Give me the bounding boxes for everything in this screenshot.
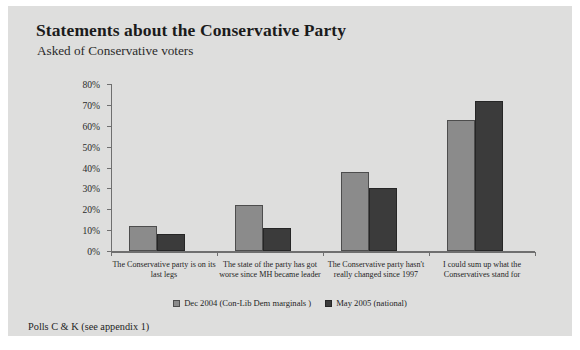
slide-panel: Statements about the Conservative Party … [8,6,572,336]
x-axis-category-label: I could sum up what the Conservatives st… [429,260,535,280]
x-axis-tick [217,252,218,256]
bar[interactable] [263,228,291,251]
legend-item[interactable]: May 2005 (national) [325,298,407,308]
bar-group [323,84,429,251]
bar-chart-plot-area: 0%10%20%30%40%50%60%70%80% The Conservat… [111,84,535,252]
bar[interactable] [369,188,397,251]
x-axis-tick [111,252,112,256]
legend-swatch-icon [173,300,180,307]
legend-label: May 2005 (national) [336,298,407,308]
source-footnote: Polls C & K (see appendix 1) [28,321,149,332]
bar[interactable] [447,120,475,252]
bar[interactable] [475,101,503,251]
legend-label: Dec 2004 (Con-Lib Dem marginals ) [184,298,311,308]
bar[interactable] [157,234,185,251]
page-subtitle: Asked of Conservative voters [37,43,193,59]
legend-item[interactable]: Dec 2004 (Con-Lib Dem marginals ) [173,298,311,308]
bar-group [217,84,323,251]
y-axis-tick-label: 50% [82,141,100,152]
bar[interactable] [341,172,369,251]
y-axis-tick-label: 60% [82,120,100,131]
y-axis-tick-label: 40% [82,162,100,173]
x-axis-category-label: The Conservative party hasn't really cha… [323,260,429,280]
y-axis-tick-label: 20% [82,204,100,215]
bar-group [111,84,217,251]
y-axis-tick-label: 30% [82,183,100,194]
x-axis-category-label: The state of the party has got worse sin… [217,260,323,280]
chart-legend: Dec 2004 (Con-Lib Dem marginals )May 200… [8,298,572,308]
legend-swatch-icon [325,300,332,307]
x-axis-category-label: The Conservative party is on its last le… [111,260,217,280]
x-axis-tick [535,252,536,256]
bar[interactable] [129,226,157,251]
y-axis-tick-label: 10% [82,225,100,236]
bar-group [429,84,535,251]
y-axis-tick-label: 80% [82,79,100,90]
y-axis-tick-label: 0% [87,246,100,257]
bar[interactable] [235,205,263,251]
x-axis-tick [429,252,430,256]
page-title: Statements about the Conservative Party [36,20,346,41]
x-axis-tick [323,252,324,256]
y-axis-tick-label: 70% [82,99,100,110]
